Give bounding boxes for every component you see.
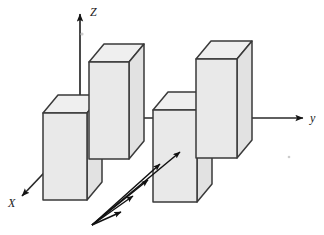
- y-axis-label: y: [309, 111, 316, 125]
- scan-speck: [80, 32, 83, 35]
- scan-speck: [288, 156, 291, 159]
- block-back-left: [89, 44, 144, 159]
- z-axis-label: Z: [90, 5, 97, 19]
- x-axis-label: X: [7, 196, 16, 210]
- block-back-left-front-face: [89, 62, 129, 159]
- block-front-left-front-face: [43, 113, 87, 200]
- block-back-right: [196, 41, 252, 158]
- block-back-right-front-face: [196, 59, 237, 158]
- block-back-left-side-face: [129, 44, 144, 159]
- figure-root: ZyX: [0, 0, 324, 235]
- figure-canvas: ZyX: [0, 0, 324, 235]
- block-back-right-side-face: [237, 41, 252, 158]
